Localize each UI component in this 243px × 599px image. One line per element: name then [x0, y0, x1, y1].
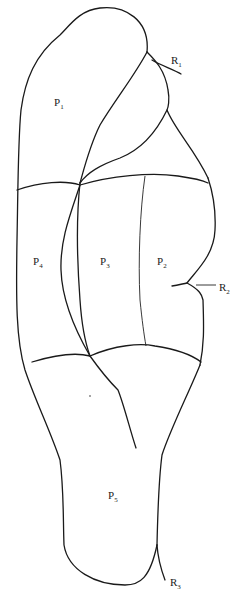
dot-mark — [89, 395, 91, 397]
label-r3: R3 — [170, 576, 181, 591]
r2-notch — [172, 283, 187, 286]
lower-transverse-line — [32, 345, 201, 362]
svg-text:P1: P1 — [54, 96, 64, 111]
label-p4: P4 — [33, 255, 43, 270]
svg-text:P5: P5 — [108, 489, 118, 504]
label-p5: P5 — [108, 489, 118, 504]
svg-text:P4: P4 — [33, 255, 43, 270]
label-p1: P1 — [54, 96, 64, 111]
svg-text:P2: P2 — [157, 255, 167, 270]
r3-branch — [157, 545, 165, 580]
label-r2: R2 — [219, 281, 230, 296]
label-p2: P2 — [157, 255, 167, 270]
svg-text:P3: P3 — [100, 255, 110, 270]
upper-right-edge — [167, 110, 208, 178]
svg-text:R1: R1 — [171, 54, 182, 69]
p3-left-boundary — [77, 183, 90, 356]
r1-inner-lobe — [80, 52, 169, 183]
upper-transverse-line — [17, 174, 208, 190]
p2-p3-divider — [139, 176, 146, 346]
outer-outline-right-middle — [187, 178, 215, 365]
svg-text:R3: R3 — [170, 576, 181, 591]
p1-divider — [80, 52, 147, 183]
diagram-canvas: P1 P4 P3 P2 P5 R1 R2 R3 — [0, 0, 243, 599]
outer-outline-left — [17, 8, 157, 585]
label-r1: R1 — [171, 54, 182, 69]
crossing-curve — [61, 185, 136, 448]
label-p3: P3 — [100, 255, 110, 270]
svg-text:R2: R2 — [219, 281, 230, 296]
outer-outline-bottom-right — [157, 365, 200, 545]
